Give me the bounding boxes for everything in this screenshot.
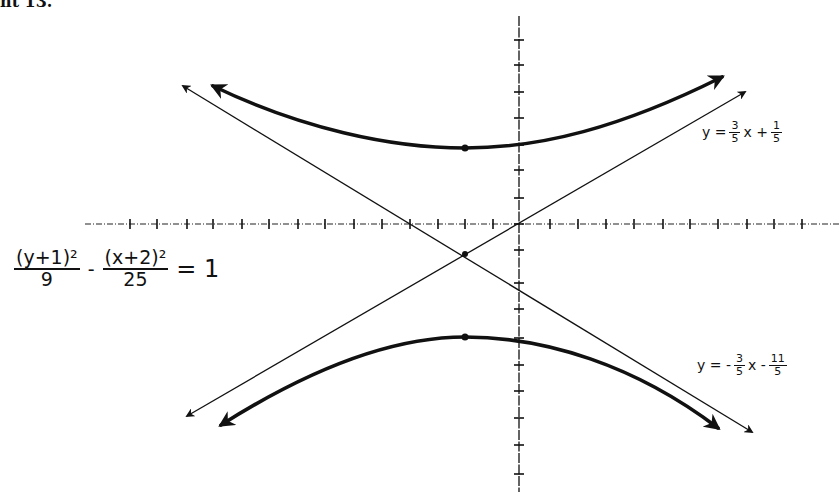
hyperbola-upper-branch <box>213 77 722 148</box>
asym-lower-const-num: 11 <box>769 353 787 366</box>
asymptote-upper-label: y = 3 5 x + 1 5 <box>702 120 782 144</box>
asym-upper-coef-num: 3 <box>729 120 740 133</box>
asym-lower-prefix: y = - <box>697 357 731 373</box>
asymptote-lower-label: y = - 3 5 x - 11 5 <box>697 353 787 377</box>
equals-one: = 1 <box>176 255 219 283</box>
asym-lower-coef-num: 3 <box>734 353 745 366</box>
hyperbola-lower-branch <box>221 337 718 428</box>
asym-lower-coef-den: 5 <box>736 366 743 378</box>
minus-sign: - <box>88 258 95 280</box>
asym-upper-const-den: 5 <box>773 133 780 145</box>
asym-upper-var: x + <box>743 124 767 140</box>
term1-numerator: (y+1)² <box>14 248 80 270</box>
asym-upper-const-num: 1 <box>771 120 782 133</box>
asym-lower-const: 11 5 <box>769 353 787 377</box>
asym-upper-prefix: y = <box>702 124 726 140</box>
term2-denominator: 25 <box>123 270 147 290</box>
hyperbola-equation-label: (y+1)² 9 - (x+2)² 25 = 1 <box>14 248 219 290</box>
term1-fraction: (y+1)² 9 <box>14 248 80 290</box>
term1-denominator: 9 <box>41 270 53 290</box>
asym-upper-coef: 3 5 <box>729 120 740 144</box>
term2-fraction: (x+2)² 25 <box>103 248 169 290</box>
asym-upper-const: 1 5 <box>771 120 782 144</box>
asym-upper-coef-den: 5 <box>731 133 738 145</box>
asym-lower-var: x - <box>748 357 766 373</box>
term2-numerator: (x+2)² <box>103 248 169 270</box>
center-point <box>462 251 468 257</box>
vertex-upper <box>462 145 469 152</box>
asym-lower-coef: 3 5 <box>734 353 745 377</box>
vertex-lower <box>462 334 469 341</box>
asym-lower-const-den: 5 <box>774 366 781 378</box>
